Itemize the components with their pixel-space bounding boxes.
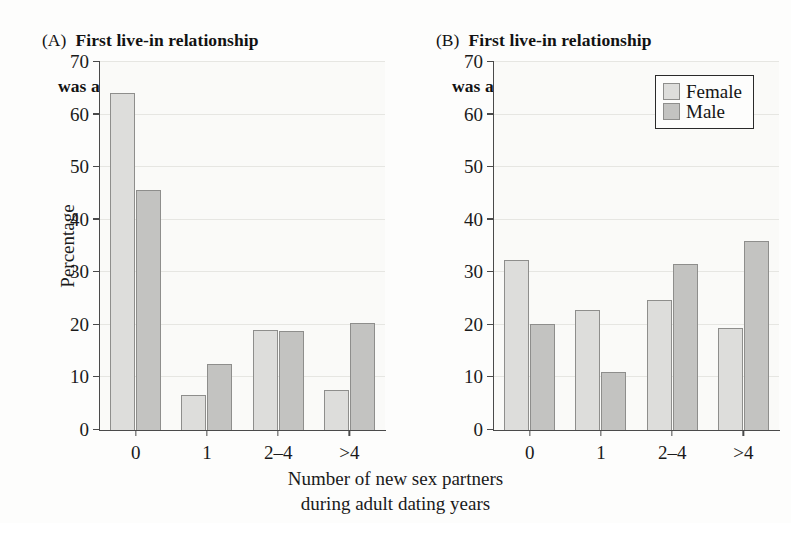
- bar-female[interactable]: [253, 330, 278, 430]
- panel-a-title-line1: First live-in relationship: [75, 30, 258, 50]
- y-tick-mark: [487, 271, 494, 272]
- y-tick-mark: [487, 429, 494, 430]
- page-bottom-margin: [0, 523, 791, 539]
- figure-container: (A) First live-in relationship was a mar…: [0, 0, 791, 539]
- y-axis-label-a: Percentage: [57, 204, 79, 287]
- y-tick-label: 0: [474, 419, 484, 441]
- chart-panel-a: 010203040506070 012–4>4 Percentage: [100, 62, 385, 430]
- x-tick-mark: [135, 430, 136, 436]
- y-tick-label: 50: [70, 156, 89, 178]
- bar-male[interactable]: [601, 372, 626, 430]
- bar-group: 0: [100, 62, 171, 430]
- y-tick-label: 10: [464, 366, 483, 388]
- panel-b-title-line1: First live-in relationship: [469, 30, 652, 50]
- x-tick-label: 2–4: [658, 442, 687, 464]
- y-tick-label: 10: [70, 366, 89, 388]
- bar-female[interactable]: [324, 390, 349, 430]
- y-tick-label: 30: [464, 261, 483, 283]
- x-axis-caption-line2: during adult dating years: [0, 491, 791, 516]
- bar-group: 2–4: [243, 62, 314, 430]
- y-tick-label: 20: [70, 314, 89, 336]
- x-tick-mark: [671, 430, 672, 436]
- x-tick-mark: [529, 430, 530, 436]
- bar-group: 0: [494, 62, 565, 430]
- legend-item-male: Male: [663, 102, 742, 121]
- bar-male[interactable]: [279, 331, 304, 430]
- y-tick-mark: [93, 376, 100, 377]
- bar-male[interactable]: [673, 264, 698, 430]
- legend-label-female: Female: [686, 82, 742, 101]
- panel-a-tag: (A): [42, 30, 67, 50]
- legend-swatch-female-icon: [663, 83, 680, 100]
- x-tick-label: 0: [525, 442, 535, 464]
- bar-group: 1: [171, 62, 242, 430]
- y-tick-label: 70: [464, 51, 483, 73]
- y-tick-mark: [487, 61, 494, 62]
- plot-area-b: 010203040506070 012–4>4 Female Male: [494, 62, 779, 430]
- y-tick-mark: [487, 166, 494, 167]
- y-tick-label: 70: [70, 51, 89, 73]
- legend-swatch-male-icon: [663, 103, 680, 120]
- y-tick-mark: [93, 271, 100, 272]
- y-tick-mark: [93, 166, 100, 167]
- y-tick-mark: [93, 113, 100, 114]
- bar-male[interactable]: [207, 364, 232, 430]
- bar-male[interactable]: [136, 190, 161, 430]
- x-tick-mark: [277, 430, 278, 436]
- bar-group: 1: [565, 62, 636, 430]
- bar-male[interactable]: [530, 324, 555, 430]
- legend-item-female: Female: [663, 82, 742, 101]
- x-tick-mark: [206, 430, 207, 436]
- bar-group: >4: [314, 62, 385, 430]
- y-tick-label: 50: [464, 156, 483, 178]
- x-tick-mark: [349, 430, 350, 436]
- x-tick-label: 1: [202, 442, 212, 464]
- bar-female[interactable]: [110, 93, 135, 430]
- bar-female[interactable]: [181, 395, 206, 430]
- x-tick-label: 1: [596, 442, 606, 464]
- y-tick-mark: [93, 429, 100, 430]
- x-tick-label: 2–4: [264, 442, 293, 464]
- y-tick-label: 60: [464, 104, 483, 126]
- bar-female[interactable]: [718, 328, 743, 431]
- bar-female[interactable]: [575, 310, 600, 430]
- y-tick-label: 0: [80, 419, 90, 441]
- y-tick-label: 20: [464, 314, 483, 336]
- y-tick-mark: [93, 61, 100, 62]
- plot-area-a: 010203040506070 012–4>4: [100, 62, 385, 430]
- bar-groups-a: 012–4>4: [100, 62, 385, 430]
- legend: Female Male: [655, 75, 754, 129]
- x-tick-mark: [600, 430, 601, 436]
- x-tick-mark: [743, 430, 744, 436]
- x-tick-label: >4: [339, 442, 359, 464]
- x-axis-caption: Number of new sex partners during adult …: [0, 466, 791, 516]
- panel-b-tag: (B): [436, 30, 460, 50]
- bar-female[interactable]: [647, 300, 672, 430]
- legend-label-male: Male: [686, 102, 725, 121]
- bar-male[interactable]: [744, 241, 769, 430]
- x-tick-label: >4: [733, 442, 753, 464]
- x-axis-caption-line1: Number of new sex partners: [0, 466, 791, 491]
- y-tick-mark: [487, 113, 494, 114]
- y-tick-mark: [93, 218, 100, 219]
- y-tick-label: 60: [70, 104, 89, 126]
- y-tick-mark: [487, 218, 494, 219]
- y-tick-mark: [487, 376, 494, 377]
- y-tick-mark: [487, 324, 494, 325]
- x-tick-label: 0: [131, 442, 141, 464]
- y-tick-mark: [93, 324, 100, 325]
- bar-female[interactable]: [504, 260, 529, 430]
- bar-male[interactable]: [350, 323, 375, 430]
- y-tick-label: 40: [464, 209, 483, 231]
- chart-panel-b: 010203040506070 012–4>4 Female Male: [494, 62, 779, 430]
